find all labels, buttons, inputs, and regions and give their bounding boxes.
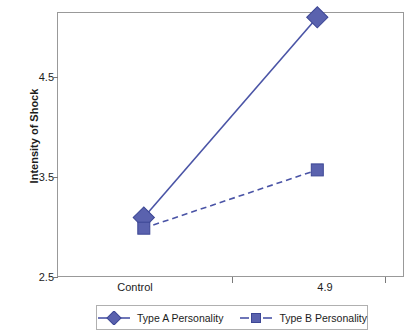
y-tick-mark-3-5	[52, 177, 58, 178]
legend-entry-type-b: Type B Personality	[239, 311, 367, 325]
y-tick-label-4-5: 4.5	[20, 71, 54, 83]
legend-marker-square-icon	[239, 311, 273, 325]
legend-label-type-a: Type A Personality	[135, 312, 223, 324]
x-tick-mark-mid	[232, 277, 233, 283]
legend-label-type-b: Type B Personality	[277, 312, 367, 324]
line-chart: Intensity of Shock 4.5 3.5 2.5 Control 4…	[0, 0, 419, 336]
plot-area	[57, 12, 404, 277]
legend-entry-type-a: Type A Personality	[97, 311, 223, 325]
y-tick-mark-4-5	[52, 77, 58, 78]
y-axis-tick-labels: 4.5 3.5 2.5	[14, 0, 54, 336]
x-tick-mark-right	[385, 277, 386, 283]
x-tick-label-4-9: 4.9	[280, 281, 370, 293]
y-tick-label-2-5: 2.5	[20, 271, 54, 283]
y-tick-label-3-5: 3.5	[20, 171, 54, 183]
legend: Type A Personality Type B Personality	[96, 305, 368, 330]
x-tick-label-control: Control	[90, 281, 180, 293]
legend-marker-diamond-icon	[97, 311, 131, 325]
y-tick-mark-2-5	[52, 277, 58, 278]
